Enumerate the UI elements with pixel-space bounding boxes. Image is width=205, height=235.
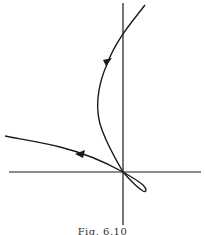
origin-loop-curve	[123, 172, 146, 192]
figure-caption: Fig. 6.10	[0, 226, 205, 235]
left-trajectory-curve	[5, 136, 123, 172]
phase-portrait-diagram	[0, 0, 205, 235]
upper-trajectory-curve	[98, 5, 145, 172]
